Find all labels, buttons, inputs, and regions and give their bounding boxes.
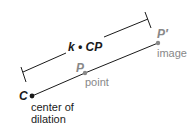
dilation-diagram	[0, 0, 196, 136]
point-symbol: P	[76, 62, 84, 74]
center-symbol: C	[19, 90, 28, 102]
bracket-line-right	[104, 19, 148, 37]
measure-label: k • CP	[68, 41, 102, 53]
center-caption-line1: center of	[31, 102, 74, 113]
center-point-dot	[30, 94, 35, 99]
bracket-tick-left	[21, 67, 26, 82]
image-point-dot	[156, 41, 160, 45]
bracket-line-left	[23, 53, 66, 72]
point-caption: point	[85, 77, 109, 88]
center-caption-line2: dilation	[31, 114, 66, 125]
image-symbol: P′	[157, 28, 168, 40]
image-caption: image	[157, 48, 187, 59]
segment-c-p	[32, 73, 85, 96]
